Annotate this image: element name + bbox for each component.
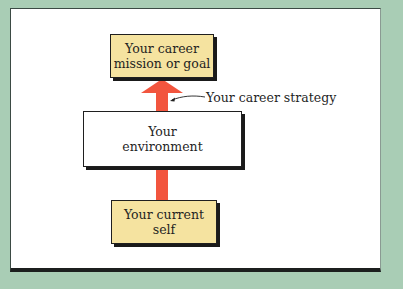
current-self-box: Your current self (111, 200, 217, 244)
career-goal-label: Your career mission or goal (114, 41, 211, 71)
environment-label: Your environment (122, 124, 202, 154)
career-strategy-label: Your career strategy (206, 90, 336, 105)
arrow-shaft-upper (156, 92, 168, 111)
arrow-shaft-lower (156, 166, 168, 200)
arrow-head-icon (141, 79, 183, 93)
annotation-pointer-icon (168, 92, 208, 106)
environment-box: Your environment (83, 111, 242, 167)
current-self-label: Your current self (124, 207, 204, 237)
career-goal-box: Your career mission or goal (110, 34, 214, 78)
